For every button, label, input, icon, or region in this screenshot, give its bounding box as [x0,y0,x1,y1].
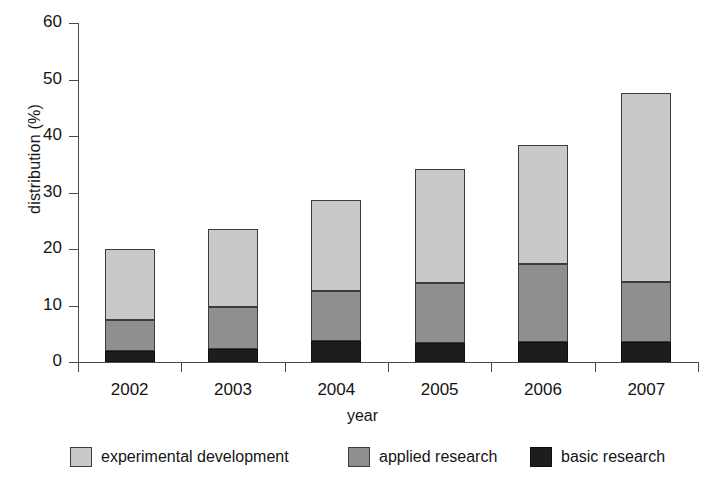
y-tick-label: 60 [18,12,62,32]
bar-segment-applied-research [311,291,361,340]
bar-segment-basic-research [105,351,155,362]
x-tick-label-2003: 2003 [193,380,273,400]
bar-segment-experimental-development [105,249,155,320]
legend-swatch-applied-research [348,447,370,467]
x-tick-label-2004: 2004 [296,380,376,400]
bar-group-2004 [311,23,361,362]
plot-area [78,23,698,362]
bar-group-2007 [621,23,671,362]
bar-group-2003 [208,23,258,362]
legend-label: applied research [379,448,497,466]
y-tick-mark [69,80,78,81]
chart-legend: experimental developmentapplied research… [0,447,725,477]
bar-segment-applied-research [415,283,465,343]
x-tick-label-2007: 2007 [606,380,686,400]
y-tick-mark [69,306,78,307]
bar-segment-basic-research [208,349,258,362]
y-tick-label: 30 [18,182,62,202]
bar-segment-applied-research [518,264,568,343]
y-tick-mark [69,23,78,24]
bar-segment-applied-research [105,320,155,351]
bar-segment-basic-research [621,342,671,362]
bar-group-2006 [518,23,568,362]
bar-segment-experimental-development [415,169,465,284]
legend-item-experimental-development[interactable]: experimental development [70,447,289,467]
bar-segment-experimental-development [621,93,671,282]
y-tick-mark [69,362,78,363]
bar-group-2002 [105,23,155,362]
bar-segment-experimental-development [311,200,361,292]
bar-segment-applied-research [621,282,671,342]
legend-label: experimental development [101,448,289,466]
legend-swatch-experimental-development [70,447,92,467]
bar-segment-experimental-development [518,145,568,264]
legend-label: basic research [561,448,665,466]
x-axis-title: year [0,407,725,425]
y-tick-label: 50 [18,69,62,89]
y-tick-label: 10 [18,295,62,315]
x-tick-mark [595,362,596,372]
bar-group-2005 [415,23,465,362]
bar-segment-experimental-development [208,229,258,307]
y-tick-mark [69,193,78,194]
legend-swatch-basic-research [530,447,552,467]
bar-segment-basic-research [415,343,465,362]
x-tick-label-2002: 2002 [90,380,170,400]
y-tick-mark [69,249,78,250]
x-tick-mark [388,362,389,372]
x-tick-mark [285,362,286,372]
y-tick-label: 20 [18,238,62,258]
bar-segment-applied-research [208,307,258,349]
y-tick-mark [69,136,78,137]
y-tick-label: 0 [18,351,62,371]
bar-segment-basic-research [311,341,361,362]
x-tick-label-2006: 2006 [503,380,583,400]
bar-segment-basic-research [518,342,568,362]
legend-item-applied-research[interactable]: applied research [348,447,497,467]
x-tick-mark [698,362,699,372]
x-tick-label-2005: 2005 [400,380,480,400]
stacked-bar-chart: distribution (%) 0102030405060 200220032… [0,0,725,483]
legend-item-basic-research[interactable]: basic research [530,447,665,467]
x-tick-mark [181,362,182,372]
y-tick-label: 40 [18,125,62,145]
x-tick-mark [491,362,492,372]
x-tick-mark [78,362,79,372]
